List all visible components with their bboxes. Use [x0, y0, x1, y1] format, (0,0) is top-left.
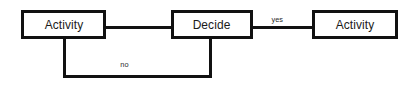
edge-label-no: no: [119, 61, 131, 69]
edge-decide-to-activity2: [251, 26, 314, 29]
node-activity-2-label: Activity: [336, 18, 375, 31]
node-decide[interactable]: Decide: [171, 10, 253, 39]
flowchart-canvas: Activity Decide Activity yes no: [0, 0, 416, 90]
node-activity-1[interactable]: Activity: [21, 10, 106, 39]
node-activity-1-label: Activity: [44, 18, 83, 31]
edge-decide-loop-vertical-down: [209, 37, 212, 78]
node-activity-2[interactable]: Activity: [312, 10, 398, 39]
edge-decide-loop-horizontal: [63, 75, 212, 78]
edge-activity1-to-decide: [104, 26, 173, 29]
node-decide-label: Decide: [193, 18, 231, 31]
edge-label-yes: yes: [270, 16, 285, 24]
edge-decide-loop-vertical-up: [63, 37, 66, 78]
